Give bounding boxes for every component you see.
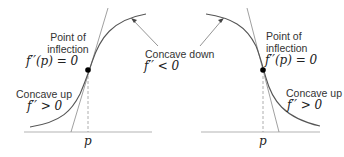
right-concave-up-equation: f′′ > 0	[287, 99, 322, 112]
concave-down-equation: f′′ < 0	[144, 60, 179, 73]
right-inflection-equation: f′′(p) = 0	[265, 54, 317, 67]
diagram-canvas	[0, 0, 344, 157]
right-concave-down-arrow	[200, 20, 222, 46]
right-inflection-label-1: Point of	[266, 30, 302, 42]
left-concave-down-arrow	[133, 20, 158, 46]
left-arrowhead-icon	[131, 18, 137, 23]
right-arrowhead-icon	[218, 18, 224, 23]
left-inflection-equation: f′′(p) = 0	[26, 55, 78, 68]
left-inflection-label-1: Point of	[48, 31, 88, 43]
left-concave-up-equation: f′′ > 0	[27, 100, 62, 113]
right-inflection-point	[260, 67, 266, 73]
right-axis-p-label: p	[259, 135, 267, 148]
left-axis-p-label: p	[84, 135, 92, 148]
left-inflection-point	[85, 67, 91, 73]
